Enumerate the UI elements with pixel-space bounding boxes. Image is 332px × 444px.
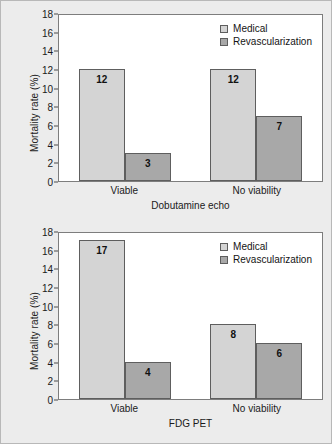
y-tick-label: 16 (27, 245, 53, 256)
y-tick-label: 12 (27, 65, 53, 76)
y-tick-label: 0 (27, 177, 53, 188)
x-axis-category-labels-top: ViableNo viability (58, 185, 323, 198)
plot-area-bottom: 17486 Medical Revascularization (58, 232, 323, 400)
y-tick-label: 14 (27, 46, 53, 57)
bar-value-label: 12 (211, 74, 255, 85)
chart-fdg-pet: Mortality rate (%) 024681012141618 17486… (7, 226, 325, 436)
y-tick-label: 4 (27, 357, 53, 368)
y-tick-label: 18 (27, 227, 53, 238)
y-tick-label: 2 (27, 158, 53, 169)
bar-revascularization-no-viability: 6 (256, 343, 302, 399)
y-tick-label: 18 (27, 9, 53, 20)
legend-top: Medical Revascularization (220, 22, 312, 48)
bar-value-label: 4 (126, 367, 170, 378)
bar-value-label: 7 (257, 121, 301, 132)
plot-area-top: 123127 Medical Revascularization (58, 14, 323, 182)
x-category-label: No viability (233, 403, 281, 414)
bar-medical-viable: 12 (79, 69, 125, 181)
legend-item-medical: Medical (220, 22, 312, 35)
bar-medical-no-viability: 12 (210, 69, 256, 181)
y-tick-mark (54, 381, 58, 382)
y-tick-mark (54, 182, 58, 183)
x-axis-category-labels-bottom: ViableNo viability (58, 403, 323, 416)
x-axis-title-top: Dobutamine echo (58, 200, 323, 211)
bar-value-label: 3 (126, 158, 170, 169)
y-tick-mark (54, 14, 58, 15)
legend-bottom: Medical Revascularization (220, 240, 312, 266)
legend-item-revascularization: Revascularization (220, 253, 312, 266)
y-axis-ticks-bottom: 024681012141618 (27, 232, 53, 400)
bar-value-label: 17 (80, 245, 124, 256)
y-tick-mark (54, 344, 58, 345)
y-tick-label: 6 (27, 339, 53, 350)
legend-label-medical: Medical (233, 23, 267, 34)
y-tick-label: 12 (27, 283, 53, 294)
x-category-label: Viable (110, 185, 138, 196)
bar-medical-no-viability: 8 (210, 324, 256, 399)
y-tick-label: 10 (27, 83, 53, 94)
y-tick-mark (54, 126, 58, 127)
legend-item-revascularization: Revascularization (220, 35, 312, 48)
legend-swatch-revascularization-icon (220, 38, 228, 46)
x-category-label: No viability (233, 185, 281, 196)
y-tick-mark (54, 144, 58, 145)
legend-swatch-revascularization-icon (220, 256, 228, 264)
bar-value-label: 8 (211, 329, 255, 340)
figure-panel: Mortality rate (%) 024681012141618 12312… (0, 0, 332, 444)
bar-revascularization-viable: 4 (125, 362, 171, 399)
x-category-label: Viable (110, 403, 138, 414)
y-tick-mark (54, 325, 58, 326)
y-tick-label: 6 (27, 121, 53, 132)
y-tick-mark (54, 269, 58, 270)
y-tick-mark (54, 163, 58, 164)
legend-swatch-medical-icon (220, 25, 228, 33)
y-tick-mark (54, 250, 58, 251)
bar-revascularization-no-viability: 7 (256, 116, 302, 181)
y-tick-mark (54, 232, 58, 233)
y-tick-label: 10 (27, 301, 53, 312)
y-tick-label: 14 (27, 264, 53, 275)
bar-medical-viable: 17 (79, 240, 125, 399)
y-tick-mark (54, 88, 58, 89)
bar-value-label: 6 (257, 348, 301, 359)
y-tick-label: 2 (27, 376, 53, 387)
chart-dobutamine-echo: Mortality rate (%) 024681012141618 12312… (7, 8, 325, 218)
legend-label-medical: Medical (233, 241, 267, 252)
y-tick-mark (54, 107, 58, 108)
y-tick-label: 8 (27, 320, 53, 331)
bar-value-label: 12 (80, 74, 124, 85)
legend-swatch-medical-icon (220, 243, 228, 251)
legend-label-revascularization: Revascularization (233, 254, 312, 265)
bar-revascularization-viable: 3 (125, 153, 171, 181)
y-tick-mark (54, 51, 58, 52)
y-tick-mark (54, 32, 58, 33)
y-tick-label: 4 (27, 139, 53, 150)
legend-item-medical: Medical (220, 240, 312, 253)
y-tick-label: 8 (27, 102, 53, 113)
legend-label-revascularization: Revascularization (233, 36, 312, 47)
x-axis-title-bottom: FDG PET (58, 418, 323, 429)
y-tick-mark (54, 306, 58, 307)
y-tick-label: 0 (27, 395, 53, 406)
y-tick-mark (54, 70, 58, 71)
y-tick-label: 16 (27, 27, 53, 38)
y-tick-mark (54, 400, 58, 401)
y-axis-ticks-top: 024681012141618 (27, 14, 53, 182)
y-tick-mark (54, 362, 58, 363)
y-tick-mark (54, 288, 58, 289)
